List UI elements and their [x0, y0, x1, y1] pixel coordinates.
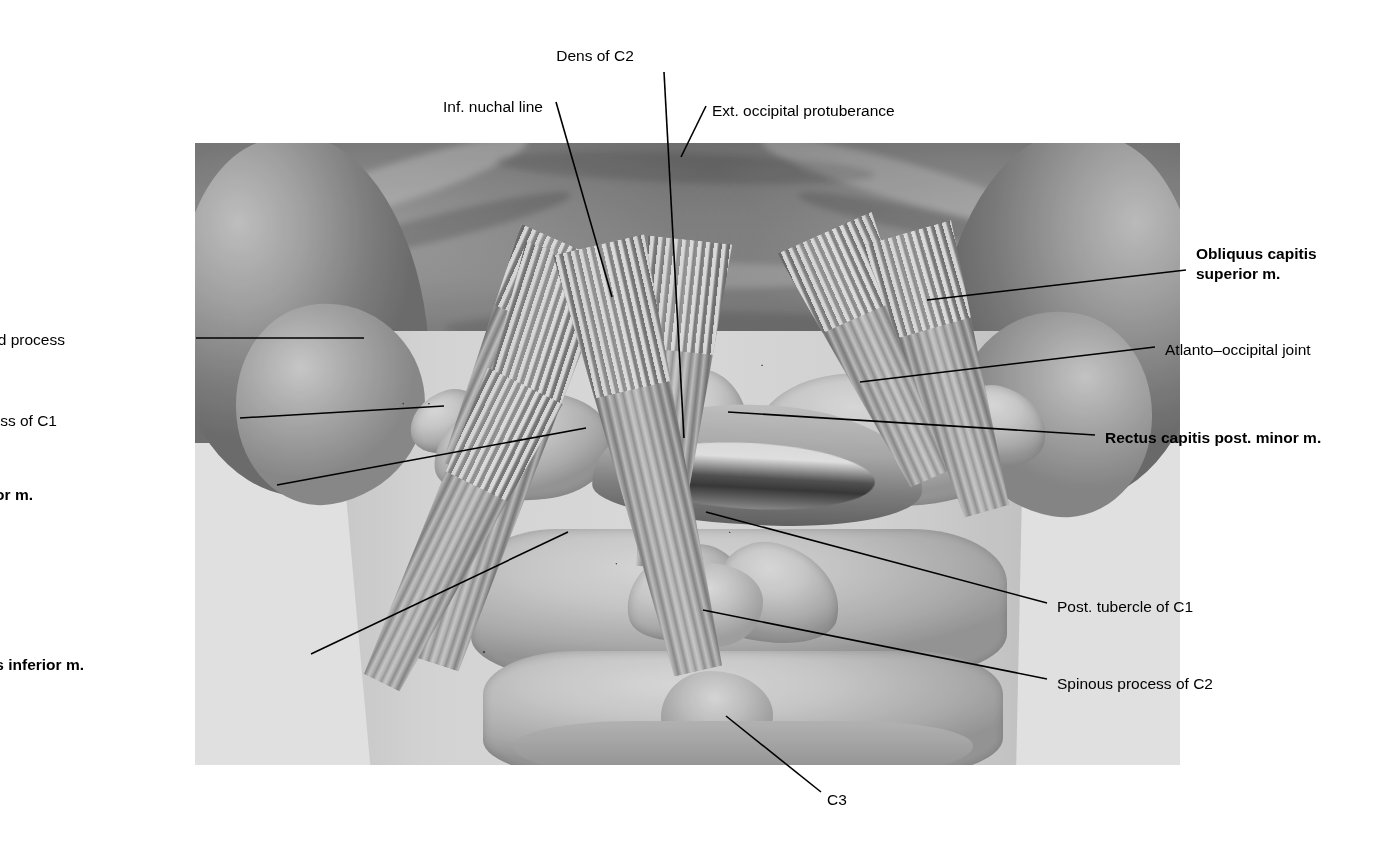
- label-obliquus-capitis-inferior-m: Obliquus capitis inferior m.: [0, 655, 84, 675]
- label-rectus-capitis-post-minor-m: Rectus capitis post. minor m.: [1105, 428, 1321, 448]
- label-rectus-capitis-post-major-m: Rectus capitis post. major m.: [0, 485, 33, 505]
- label-obliquus-capitis-superior-m: Obliquus capitis superior m.: [1196, 244, 1317, 284]
- label-ext-occipital-protuberance: Ext. occipital protuberance: [712, 101, 895, 121]
- c3-inferior-margin: [513, 721, 973, 765]
- label-mastoid-process: Mastoid process: [0, 330, 65, 350]
- label-inf-nuchal-line: Inf. nuchal line: [443, 97, 543, 117]
- label-transverse-process-of-c1: Transverse process of C1: [0, 411, 57, 431]
- label-dens-of-c2: Dens of C2: [556, 46, 634, 66]
- label-atlanto-occipital-joint: Atlanto–occipital joint: [1165, 340, 1311, 360]
- figure-canvas: Dens of C2Inf. nuchal lineExt. occipital…: [0, 0, 1379, 856]
- anatomical-illustration-plate: [195, 143, 1180, 765]
- label-spinous-process-of-c2: Spinous process of C2: [1057, 674, 1213, 694]
- label-post-tubercle-of-c1: Post. tubercle of C1: [1057, 597, 1193, 617]
- label-c3: C3: [827, 790, 847, 810]
